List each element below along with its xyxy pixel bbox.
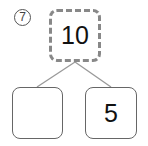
top-number-box: 10: [49, 9, 101, 62]
bottom-right-number-box: 5: [85, 87, 137, 139]
answer-box-empty[interactable]: [12, 87, 63, 139]
